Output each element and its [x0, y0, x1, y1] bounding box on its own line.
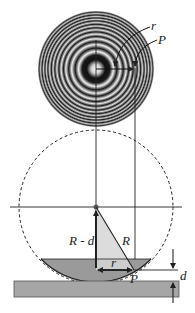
label-p-bottom: P: [129, 271, 138, 286]
label-p-top: P: [157, 32, 166, 47]
label-r-minus-d: R - d: [68, 233, 95, 248]
label-r-top: r: [151, 18, 157, 33]
label-big-r: R: [121, 233, 130, 248]
label-d: d: [180, 268, 187, 283]
glass-slab: [14, 281, 179, 297]
newtons-rings-diagram: r P R - d R r P d: [0, 0, 195, 313]
